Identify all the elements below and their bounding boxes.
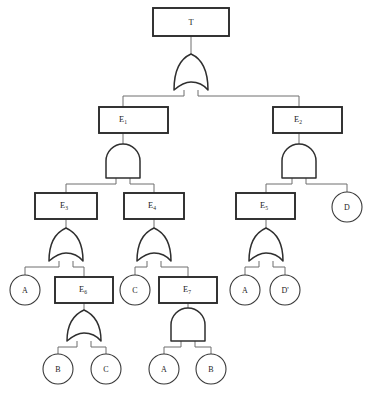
edge-e1gate-to-e3 — [66, 178, 116, 193]
basic-event-dprime-right[interactable]: D' — [270, 275, 300, 305]
edge-e6gate-to-c — [91, 341, 106, 354]
event-box-e2[interactable]: E2 — [273, 107, 342, 133]
top-event-label: T — [188, 18, 193, 27]
b-bottom-mid-label: B — [208, 365, 213, 374]
basic-event-d-top-right[interactable]: D — [332, 192, 362, 222]
and-gate-e2 — [282, 144, 316, 178]
edge-e2gate-to-d — [306, 178, 347, 192]
or-gate-e4 — [137, 228, 171, 261]
event-box-e3[interactable]: E3 — [35, 193, 97, 219]
c-mid-label: C — [132, 286, 137, 295]
or-gate-e6 — [67, 310, 101, 341]
or-gate-e5 — [249, 228, 283, 261]
and-gate-e1 — [106, 144, 140, 178]
a-bottom-mid-label: A — [161, 365, 167, 374]
basic-event-b-bottom-mid[interactable]: B — [196, 354, 226, 384]
basic-event-a-right[interactable]: A — [230, 275, 260, 305]
edge-e2gate-to-e5 — [266, 178, 292, 193]
edge-orgate-to-e1 — [123, 90, 184, 107]
e1-rect[interactable] — [99, 107, 168, 133]
event-box-e6[interactable]: E6 — [55, 277, 113, 303]
basic-event-c-mid[interactable]: C — [120, 275, 150, 305]
event-box-top[interactable]: T — [153, 8, 229, 36]
d-top-right-label: D — [344, 203, 350, 212]
or-gate-e3 — [49, 228, 83, 261]
edge-orgate-to-e2 — [198, 90, 299, 107]
basic-event-a-bottom-mid[interactable]: A — [149, 354, 179, 384]
edge-e4gate-to-c — [135, 261, 147, 275]
basic-event-a-left[interactable]: A — [10, 275, 40, 305]
or-gate-top — [174, 54, 208, 90]
edge-e3gate-to-a — [25, 261, 59, 275]
basic-event-c-bottom-left[interactable]: C — [91, 354, 121, 384]
and-gate-e7 — [171, 308, 205, 341]
event-box-e1[interactable]: E1 — [99, 107, 168, 133]
edge-e3gate-to-e6 — [73, 261, 84, 277]
edge-e4gate-to-e7 — [161, 261, 188, 277]
edge-e5gate-to-dprime — [273, 261, 285, 275]
edge-e7gate-to-a — [164, 341, 181, 354]
event-box-e5[interactable]: E5 — [236, 193, 295, 219]
edge-e1gate-to-e4 — [130, 178, 154, 193]
dprime-right-label: D' — [281, 286, 289, 295]
a-left-label: A — [22, 286, 28, 295]
edge-e5gate-to-a — [245, 261, 259, 275]
c-bottom-left-label: C — [103, 365, 108, 374]
a-right-label: A — [242, 286, 248, 295]
event-box-e4[interactable]: E4 — [124, 193, 184, 219]
b-bottom-left-label: B — [55, 365, 60, 374]
basic-event-b-bottom-left[interactable]: B — [43, 354, 73, 384]
e2-rect[interactable] — [273, 107, 342, 133]
fault-tree-diagram: T E1 E2 E3 E4 E5 E6 — [0, 0, 367, 397]
edge-e7gate-to-b — [195, 341, 211, 354]
event-box-e7[interactable]: E7 — [159, 277, 217, 303]
edge-e6gate-to-b — [58, 341, 77, 354]
